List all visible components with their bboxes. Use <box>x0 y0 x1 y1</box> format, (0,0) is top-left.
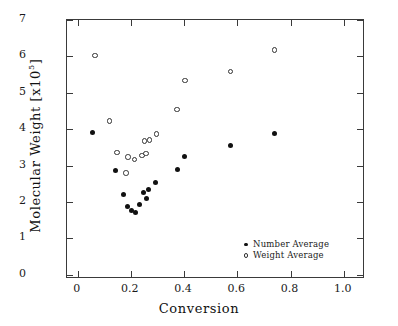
data-point-weight-average <box>143 151 149 157</box>
open-circle-icon <box>239 253 253 258</box>
data-point-number-average <box>133 210 138 215</box>
data-point-weight-average <box>147 137 153 143</box>
y-tick-label-2: 2 <box>2 195 26 206</box>
data-point-number-average <box>146 187 151 192</box>
x-tick-label-0.8: 0.8 <box>268 283 312 294</box>
legend-item-number-average: Number Average <box>239 239 329 250</box>
data-point-weight-average <box>92 53 98 59</box>
filled-circle-icon <box>239 243 253 247</box>
scatter-chart-figure: 01234567 00.20.40.60.81.0 Molecular Weig… <box>0 0 398 326</box>
data-point-number-average <box>175 167 180 172</box>
y-axis-title-exponent: 5 <box>27 64 36 70</box>
data-point-number-average <box>182 154 187 159</box>
legend-label-weight-average: Weight Average <box>253 250 324 261</box>
y-tick-label-1: 1 <box>2 231 26 242</box>
y-tick-label-4: 4 <box>2 122 26 133</box>
y-tick-label-6: 6 <box>2 49 26 60</box>
data-point-weight-average <box>174 107 180 113</box>
x-tick-label-1.0: 1.0 <box>321 283 365 294</box>
x-tick-label-0.4: 0.4 <box>161 283 205 294</box>
data-point-number-average <box>228 143 233 148</box>
x-tick-label-0: 0 <box>55 283 99 294</box>
data-point-number-average <box>153 180 158 185</box>
y-tick-label-7: 7 <box>2 13 26 24</box>
x-tick-label-0.6: 0.6 <box>214 283 258 294</box>
x-axis-title: Conversion <box>0 301 398 316</box>
data-point-number-average <box>272 131 277 136</box>
legend-item-weight-average: Weight Average <box>239 250 329 261</box>
x-tick-label-0.2: 0.2 <box>108 283 152 294</box>
data-point-weight-average <box>123 170 129 176</box>
data-point-weight-average <box>228 69 234 75</box>
data-point-weight-average <box>114 150 120 156</box>
data-point-number-average <box>141 190 146 195</box>
chart-legend: Number Average Weight Average <box>239 239 329 261</box>
data-point-weight-average <box>154 131 160 137</box>
y-tick-label-3: 3 <box>2 159 26 170</box>
plot-frame: Number Average Weight Average <box>66 19 364 278</box>
y-axis-title-bracket: ] <box>28 59 43 65</box>
legend-label-number-average: Number Average <box>253 239 329 250</box>
data-point-number-average <box>121 192 126 197</box>
data-point-weight-average <box>125 154 131 160</box>
data-point-weight-average <box>107 118 113 124</box>
data-point-weight-average <box>132 157 138 163</box>
y-tick-label-0: 0 <box>2 268 26 279</box>
data-point-number-average <box>90 130 95 135</box>
y-tick-label-5: 5 <box>2 86 26 97</box>
data-point-number-average <box>137 202 142 207</box>
data-point-weight-average <box>182 78 188 84</box>
y-axis-title-base: Molecular Weight [x10 <box>28 70 43 233</box>
data-point-number-average <box>113 168 118 173</box>
data-point-number-average <box>144 196 149 201</box>
data-point-weight-average <box>272 47 278 53</box>
y-axis-title: Molecular Weight [x105] <box>27 26 42 266</box>
